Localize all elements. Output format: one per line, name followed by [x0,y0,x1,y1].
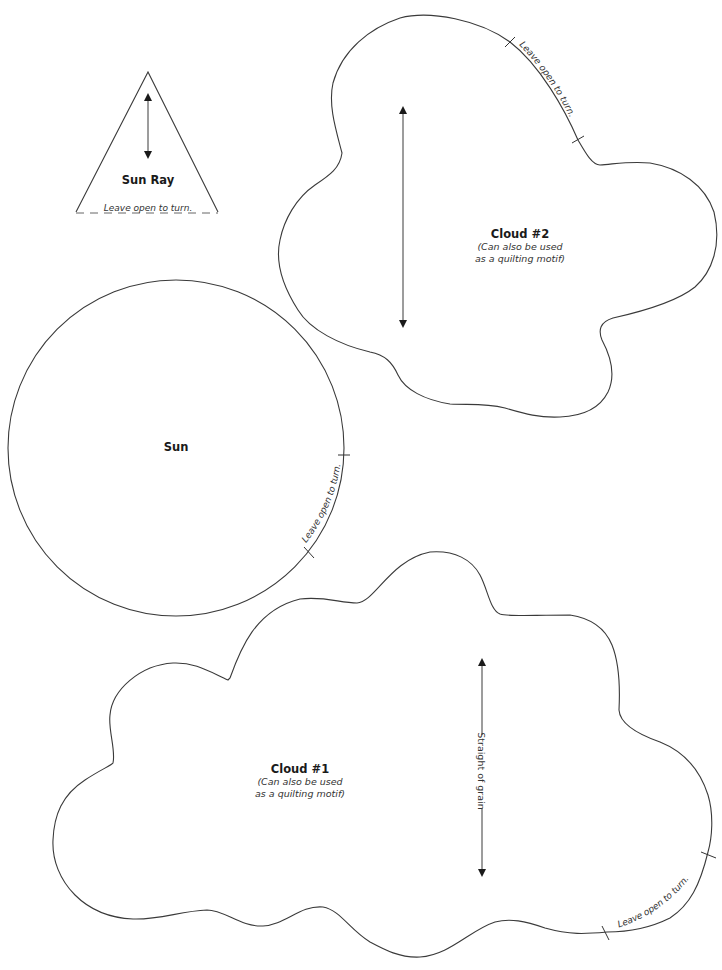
cloud2-tick-end [572,136,584,143]
pattern-sheet: Sun Ray Leave open to turn. Leave open t… [0,0,722,970]
sun-ray-open-note: Leave open to turn. [104,203,193,213]
sun-title: Sun [164,440,189,454]
cloud1-sub-line2: as a quilting motif) [255,788,345,799]
clipped-footer [300,964,500,970]
cloud1-grain-label: Straight of grain [476,732,487,810]
cloud2-sub-line1: (Can also be used [477,241,563,252]
cloud1-tick-start [602,926,609,940]
sun-piece: Leave open to turn. Sun [8,280,350,616]
cloud1-outline [53,552,712,957]
cloud2-open-note: Leave open to turn. [518,39,578,118]
cloud2-title: Cloud #2 [491,227,549,241]
cloud2-outline [278,15,716,417]
cloud1-open-note: Leave open to turn. [616,874,691,930]
cloud1-tick-end [701,852,716,858]
cloud1-piece: Leave open to turn. Straight of grain Cl… [53,552,716,957]
sun-tick-end [304,547,314,558]
cloud2-piece: Leave open to turn. Cloud #2 (Can also b… [278,15,716,417]
sun-ray-title: Sun Ray [122,173,175,187]
cloud2-sub-line2: as a quilting motif) [475,253,565,264]
cloud1-sub-line1: (Can also be used [257,776,343,787]
cloud1-title: Cloud #1 [271,762,329,776]
sun-ray-piece: Sun Ray Leave open to turn. [76,72,218,213]
sun-ray-outline [76,72,218,212]
